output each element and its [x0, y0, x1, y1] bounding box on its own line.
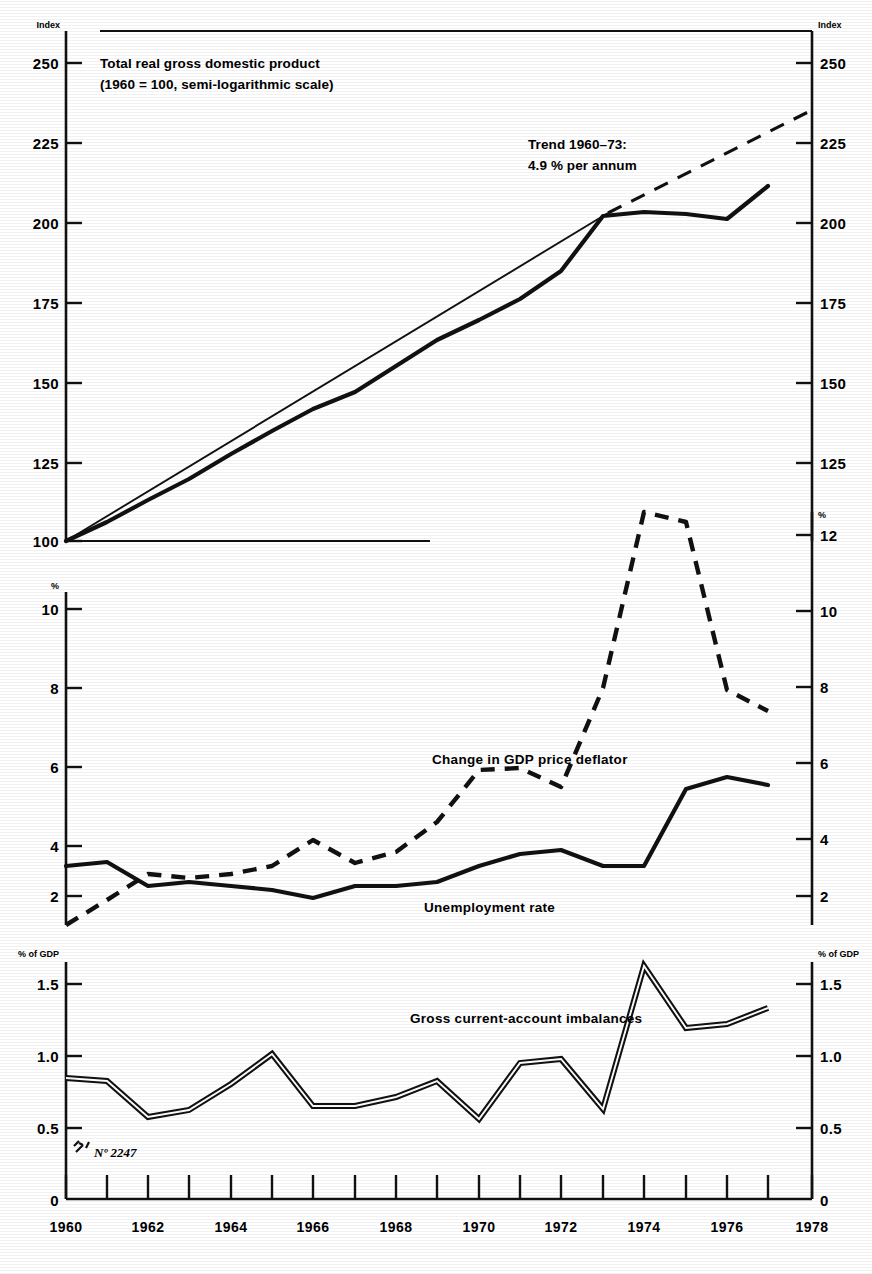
gdp-right-tick-125: 125	[820, 455, 846, 472]
gdp-panel-title-line1: Total real gross domestic product	[100, 56, 320, 71]
x-label-1962: 1962	[131, 1219, 164, 1235]
prices-right-tick-12: 12	[820, 527, 838, 544]
imbalances-right-tick-15: 1.5	[820, 976, 842, 993]
imbalances-left-tick-10: 1.0	[37, 1048, 59, 1065]
prices-left-tick-6: 6	[50, 759, 59, 776]
gdp-trend-annotation-line1: Trend 1960–73:	[528, 137, 627, 152]
gdp-right-tick-150: 150	[820, 375, 846, 392]
gdp-left-tick-150: 150	[33, 375, 59, 392]
imbalances-right-tick-05: 0.5	[820, 1120, 842, 1137]
prices-right-axis-unit: %	[818, 510, 826, 520]
gdp-right-axis-unit: Index	[818, 20, 842, 30]
gdp-right-tick-225: 225	[820, 135, 846, 152]
imbalances-left-tick-0: 0	[50, 1192, 59, 1209]
imbalances-left-axis-unit: % of GDP	[18, 949, 59, 959]
x-label-1970: 1970	[462, 1219, 495, 1235]
gdp-left-tick-100: 100	[33, 533, 59, 550]
gdp-trend-annotation-line2: 4.9 % per annum	[528, 158, 637, 173]
gdp-right-tick-250: 250	[820, 55, 846, 72]
prices-right-tick-10: 10	[820, 603, 838, 620]
x-label-1972: 1972	[544, 1219, 577, 1235]
economic-chart-figure: Index 250 225 200 175 150 125 100 Index …	[0, 0, 872, 1274]
chart-canvas: Index 250 225 200 175 150 125 100 Index …	[0, 0, 872, 1274]
prices-left-tick-4: 4	[50, 838, 59, 855]
prices-right-tick-4: 4	[820, 831, 829, 848]
gdp-left-tick-125: 125	[33, 455, 59, 472]
x-label-1968: 1968	[379, 1219, 412, 1235]
gdp-panel-title-line2: (1960 = 100, semi-logarithmic scale)	[100, 77, 334, 92]
prices-left-tick-10: 10	[42, 601, 60, 618]
gdp-left-tick-250: 250	[33, 55, 59, 72]
prices-left-tick-2: 2	[50, 888, 59, 905]
prices-left-axis-unit: %	[51, 581, 59, 591]
gdp-left-tick-225: 225	[33, 135, 59, 152]
gdp-left-axis-unit: Index	[36, 20, 60, 30]
x-label-1974: 1974	[627, 1219, 660, 1235]
imbalances-right-tick-10: 1.0	[820, 1048, 842, 1065]
gdp-right-tick-175: 175	[820, 295, 846, 312]
imbalances-left-tick-05: 0.5	[37, 1120, 59, 1137]
label-gdp-price-deflator: Change in GDP price deflator	[432, 752, 628, 767]
gdp-left-tick-200: 200	[33, 215, 59, 232]
x-label-1978: 1978	[795, 1219, 828, 1235]
prices-right-tick-6: 6	[820, 755, 829, 772]
x-label-1966: 1966	[296, 1219, 329, 1235]
x-label-1976: 1976	[710, 1219, 743, 1235]
label-current-account-imbalances: Gross current-account imbalances	[410, 1011, 642, 1026]
x-label-1960: 1960	[49, 1219, 82, 1235]
gdp-right-tick-200: 200	[820, 215, 846, 232]
imbalances-left-tick-15: 1.5	[37, 976, 59, 993]
prices-left-tick-8: 8	[50, 680, 59, 697]
imbalances-right-tick-0: 0	[820, 1192, 829, 1209]
prices-right-tick-2: 2	[820, 888, 829, 905]
x-label-1964: 1964	[214, 1219, 247, 1235]
prices-right-tick-8: 8	[820, 679, 829, 696]
imbalances-right-axis-unit: % of GDP	[818, 949, 859, 959]
gdp-left-tick-175: 175	[33, 295, 59, 312]
label-unemployment-rate: Unemployment rate	[424, 900, 555, 915]
reference-number: Nº 2247	[93, 1145, 137, 1160]
